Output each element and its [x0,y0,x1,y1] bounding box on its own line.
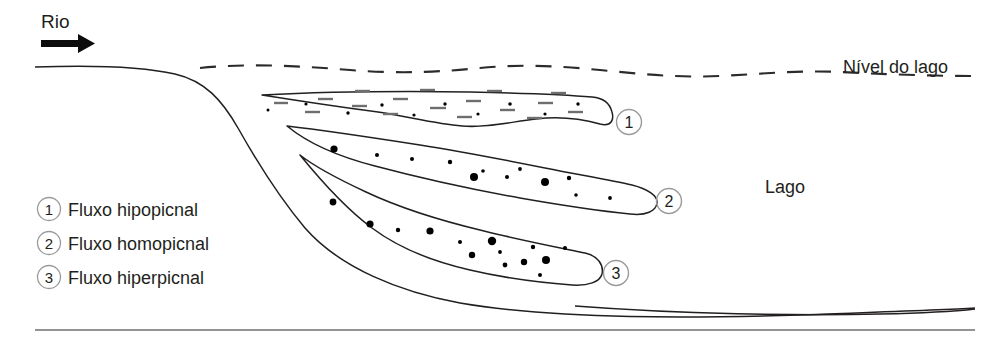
legend-item-hyperpycnal[interactable]: 3 Fluxo hiperpicnal [38,266,205,289]
hypopycnal-dot-fill [267,102,580,116]
lake-label: Lago [765,177,805,197]
callout-3-number: 3 [612,265,621,282]
legend-marker-1: 1 [45,201,53,218]
callout-1-number: 1 [625,114,634,131]
legend-label-3: Fluxo hiperpicnal [68,268,204,288]
callout-2: 2 [657,189,682,214]
flow-lobe-hypopycnal [262,90,613,126]
callout-3: 3 [604,261,629,286]
hyperpycnal-dot-fill [330,199,567,277]
flow-lobe-hyperpycnal [300,155,602,285]
legend-label-2: Fluxo homopicnal [68,234,209,254]
right-arrow-icon [41,34,95,53]
lake-level-label: Nível do lago [843,57,948,77]
legend-marker-3: 3 [45,269,53,286]
flow-lobe-homopycnal [287,126,657,214]
legend-item-homopycnal[interactable]: 2 Fluxo homopicnal [38,232,210,255]
legend-item-hypopycnal[interactable]: 1 Fluxo hipopicnal [38,198,199,221]
callout-1: 1 [617,110,642,135]
legend: 1 Fluxo hipopicnal 2 Fluxo homopicnal 3 … [38,198,210,289]
river-label: Rio [41,11,70,32]
legend-marker-2: 2 [45,235,53,252]
callout-2-number: 2 [665,193,674,210]
legend-label-1: Fluxo hipopicnal [68,200,198,220]
lake-delta-flow-diagram: Rio Nível do lago Lago [0,0,994,342]
